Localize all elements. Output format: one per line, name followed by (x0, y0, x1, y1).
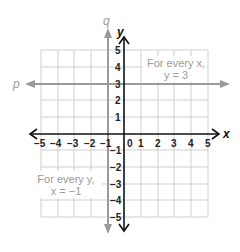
x-tick: 1 (138, 138, 144, 149)
arrow-right-icon (220, 80, 230, 88)
y-tick: 1 (115, 112, 121, 123)
arrow-up-icon (104, 28, 112, 38)
x-tick: −4 (50, 138, 62, 149)
arrow-left-icon (25, 80, 35, 88)
y-tick: 5 (115, 45, 121, 56)
p-note-line2: y = 3 (164, 69, 188, 81)
y-tick: 2 (115, 95, 121, 106)
y-tick-labels-positive: 5 4 3 2 1 (115, 45, 121, 123)
y-tick: −5 (110, 212, 122, 223)
x-tick-labels: −5 −4 −3 −2 −1 0 1 2 3 4 5 (34, 138, 211, 149)
y-tick: 4 (115, 62, 121, 73)
y-axis-label: y (116, 25, 125, 39)
y-tick: 3 (115, 79, 121, 90)
arrow-down-icon (104, 224, 112, 234)
x-axis-label: x (222, 127, 231, 141)
q-note-line1: For every y, (37, 173, 94, 185)
y-tick-labels-negative: −1 −2 −3 −4 −5 (110, 145, 122, 223)
x-tick: 4 (188, 138, 194, 149)
q-note-line2: x = −1 (51, 185, 82, 197)
y-tick: −2 (110, 162, 122, 173)
x-tick: −3 (67, 138, 79, 149)
y-tick: −4 (110, 195, 122, 206)
line-p-label: p (12, 77, 20, 91)
x-tick: 5 (205, 138, 211, 149)
line-q-label: q (103, 14, 110, 28)
x-tick: −5 (34, 138, 46, 149)
p-note-line1: For every x, (147, 57, 205, 69)
x-tick: −2 (84, 138, 96, 149)
x-tick: 2 (155, 138, 161, 149)
x-tick: 0 (127, 138, 133, 149)
y-tick: −3 (110, 179, 122, 190)
coordinate-plane: x y q p −5 −4 −3 −2 −1 0 1 2 3 4 5 5 4 3… (0, 0, 240, 252)
y-tick: −1 (110, 145, 122, 156)
x-tick: 3 (171, 138, 177, 149)
